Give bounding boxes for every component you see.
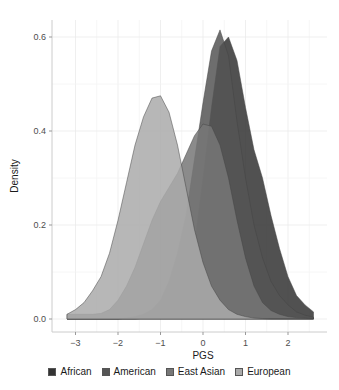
y-tick-label: 0.0	[33, 314, 46, 324]
x-tick-label: −1	[155, 338, 165, 348]
x-tick-label: 2	[285, 338, 290, 348]
legend-item-east-asian: East Asian	[166, 366, 225, 377]
y-axis-ticks: 0.00.20.40.6	[33, 32, 52, 324]
y-tick-label: 0.2	[33, 220, 46, 230]
legend-label-african: African	[60, 366, 91, 377]
legend-swatch-african	[48, 368, 56, 376]
legend-swatch-american	[102, 368, 110, 376]
y-tick-label: 0.6	[33, 32, 46, 42]
x-tick-label: −2	[113, 338, 123, 348]
legend-label-east-asian: East Asian	[178, 366, 225, 377]
density-chart: −3−2−1012 0.00.20.40.6 PGS Density	[0, 0, 339, 390]
x-tick-label: 0	[200, 338, 205, 348]
x-tick-label: −3	[70, 338, 80, 348]
legend: African American East Asian European	[0, 366, 339, 377]
y-axis-title: Density	[9, 159, 20, 192]
legend-item-european: European	[235, 366, 290, 377]
legend-swatch-european	[235, 368, 243, 376]
y-tick-label: 0.4	[33, 126, 46, 136]
legend-label-american: American	[114, 366, 156, 377]
legend-label-european: European	[247, 366, 290, 377]
legend-swatch-east-asian	[166, 368, 174, 376]
x-tick-label: 1	[243, 338, 248, 348]
legend-item-african: African	[48, 366, 91, 377]
x-axis-ticks: −3−2−1012	[70, 332, 290, 348]
legend-item-american: American	[102, 366, 156, 377]
x-axis-title: PGS	[192, 350, 213, 361]
